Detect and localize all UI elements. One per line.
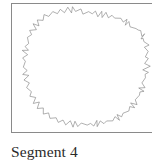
fractal-curve-chart — [12, 4, 152, 133]
plot-frame — [11, 3, 152, 133]
figure-caption: Segment 4 — [11, 142, 152, 162]
fractal-closed-contour — [22, 7, 150, 127]
figure-container: Segment 4 — [0, 0, 152, 166]
